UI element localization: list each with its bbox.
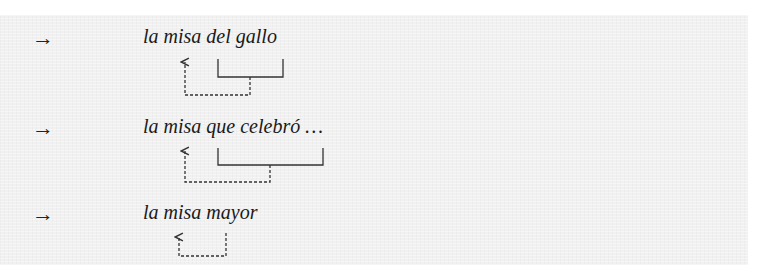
- dependency-brackets: [0, 0, 767, 277]
- dependency-arrow-3: [179, 233, 226, 256]
- dependency-arrow-2: [185, 151, 270, 182]
- modifier-bracket-1: [218, 59, 283, 77]
- modifier-bracket-2: [218, 148, 323, 165]
